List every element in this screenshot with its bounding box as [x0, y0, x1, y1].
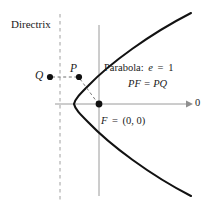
point-q-marker [47, 74, 53, 80]
axis-arrowhead-icon [186, 101, 193, 108]
equals-sign: = [158, 62, 164, 73]
eccentricity-symbol: e [148, 62, 153, 73]
parabola-equation-label: Parabola: e = 1 [104, 63, 173, 74]
parabola-figure: Directrix Q P Parabola: e = 1 PF = PQ F … [0, 0, 214, 216]
point-p-label: P [70, 63, 77, 75]
origin-axis-label: 0 [195, 98, 200, 109]
focus-symbol: F [101, 115, 107, 126]
parabola-diagram-svg [0, 0, 214, 216]
focus-label: F = (0, 0) [101, 116, 145, 127]
parabola-text: Parabola: [104, 62, 144, 73]
distance-relation-label: PF = PQ [128, 79, 167, 90]
eccentricity-value: 1 [168, 62, 173, 73]
focus-coordinates: (0, 0) [123, 115, 146, 126]
point-p-marker [76, 74, 82, 80]
directrix-label: Directrix [11, 19, 51, 30]
point-f-marker [96, 101, 103, 108]
point-q-label: Q [35, 70, 43, 82]
focus-equals-sign: = [112, 115, 118, 126]
